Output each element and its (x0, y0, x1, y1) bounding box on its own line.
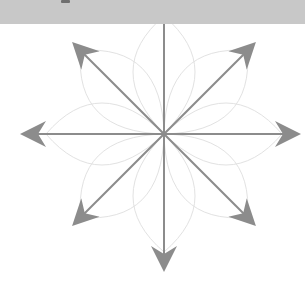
header-bar (0, 0, 305, 24)
north-arrow-overlay (0, 0, 305, 286)
figure-canvas (0, 0, 305, 286)
header-speck-icon (61, 0, 70, 3)
